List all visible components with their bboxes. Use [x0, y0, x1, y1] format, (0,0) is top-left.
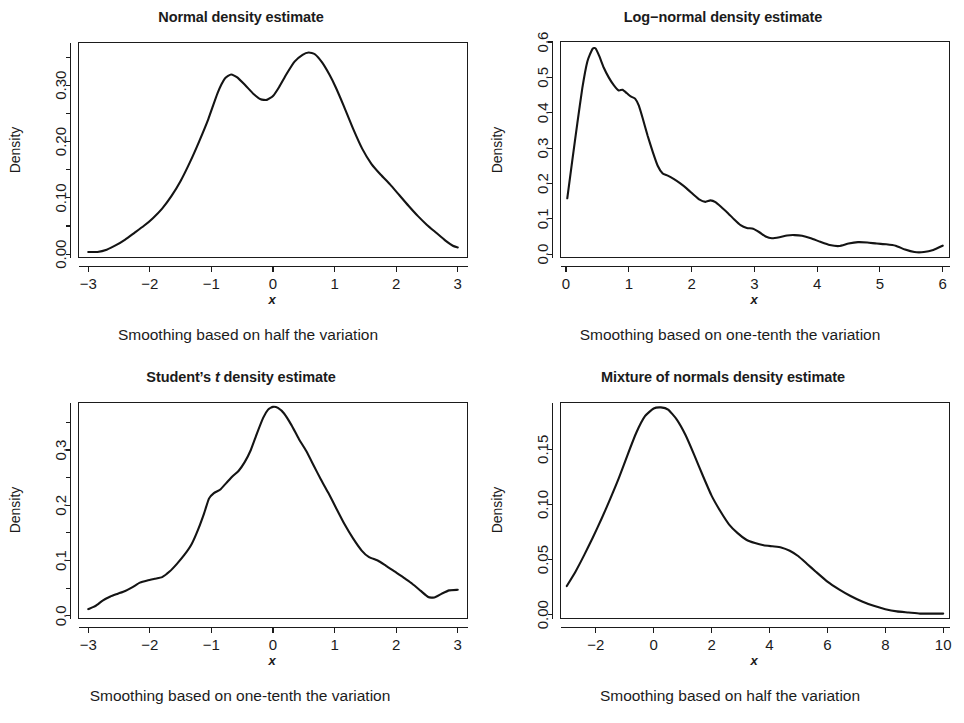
plot-title-post: density estimate: [220, 369, 336, 385]
y-tick-label: 0.2: [52, 495, 69, 516]
x-axis-label: x: [749, 653, 758, 668]
plot-title: Student’s t density estimate: [146, 369, 335, 385]
x-tick-label: 6: [939, 275, 947, 292]
x-tick-labels: −20246810: [587, 636, 951, 653]
plot-frame: [561, 403, 950, 619]
panel-caption: Smoothing based on half the variation: [600, 687, 860, 704]
x-tick-label: 4: [813, 275, 821, 292]
y-tick-label: 0.6: [534, 32, 551, 53]
y-axis-label: Density: [7, 127, 23, 174]
x-axis-label: x: [267, 653, 276, 668]
x-axis: [561, 267, 950, 272]
y-tick-label: 0.00: [534, 600, 551, 629]
figure-grid: Normal density estimate 0.000.100.200.30…: [0, 0, 964, 723]
plot-normal: Normal density estimate 0.000.100.200.30…: [0, 0, 482, 362]
y-tick-label: 0.0: [534, 244, 551, 265]
x-tick-label: 1: [330, 275, 338, 292]
panel-caption: Smoothing based on one-tenth the variati…: [580, 326, 881, 343]
panel-caption: Smoothing based on half the variation: [118, 326, 378, 343]
x-tick-label: 0: [562, 275, 570, 292]
density-curve: [567, 48, 942, 252]
x-tick-label: 0: [649, 636, 657, 653]
panel-caption: Smoothing based on one-tenth the variati…: [90, 687, 391, 704]
y-axis-label: Density: [7, 487, 23, 534]
y-tick-label: 0.05: [534, 545, 551, 574]
x-tick-label: 10: [935, 636, 952, 653]
y-tick-label: 0.3: [534, 138, 551, 159]
plot-frame: [79, 43, 468, 258]
x-tick-label: 4: [765, 636, 773, 653]
x-tick-label: 1: [330, 636, 338, 653]
x-tick-label: −3: [80, 275, 97, 292]
density-curve: [88, 407, 458, 609]
y-tick-label: 0.5: [534, 67, 551, 88]
panel-studentt: Student’s t density estimate 0.00.10.20.…: [0, 362, 482, 723]
y-tick-label: 0.0: [52, 605, 69, 626]
x-tick-label: 8: [881, 636, 889, 653]
y-tick-label: 0.10: [52, 183, 69, 212]
x-tick-label: 3: [454, 275, 462, 292]
x-tick-label: 0: [269, 275, 277, 292]
x-tick-label: 3: [750, 275, 758, 292]
y-tick-label: 0.20: [52, 127, 69, 156]
x-tick-label: 2: [707, 636, 715, 653]
plot-mixture: Mixture of normals density estimate 0.00…: [482, 362, 964, 723]
x-tick-label: 0: [269, 636, 277, 653]
density-curve: [567, 407, 943, 613]
panel-mixture: Mixture of normals density estimate 0.00…: [482, 362, 964, 723]
y-tick-label: 0.10: [534, 490, 551, 519]
y-tick-label: 0.30: [52, 71, 69, 100]
x-tick-label: −1: [203, 636, 220, 653]
x-axis: [79, 267, 468, 272]
plot-studentt: Student’s t density estimate 0.00.10.20.…: [0, 362, 482, 723]
y-tick-label: 0.2: [534, 173, 551, 194]
y-tick-label: 0.00: [52, 240, 69, 269]
plot-title: Log−normal density estimate: [624, 9, 822, 25]
x-tick-label: −1: [203, 275, 220, 292]
x-tick-label: −2: [587, 636, 604, 653]
y-axis-label: Density: [489, 487, 505, 534]
x-tick-labels: −3−2−10123: [80, 636, 462, 653]
plot-title-pre: Student’s: [146, 369, 215, 385]
plot-frame: [79, 403, 468, 619]
x-tick-label: 3: [454, 636, 462, 653]
x-tick-label: 2: [392, 636, 400, 653]
plot-title: Mixture of normals density estimate: [601, 369, 845, 385]
y-tick-labels: 0.00.10.20.30.40.50.6: [534, 32, 551, 265]
y-tick-label: 0.15: [534, 435, 551, 464]
x-tick-label: −2: [141, 275, 158, 292]
x-tick-label: −2: [141, 636, 158, 653]
y-tick-label: 0.3: [52, 440, 69, 461]
y-tick-label: 0.4: [534, 102, 551, 123]
x-axis: [79, 628, 468, 633]
x-tick-label: 2: [687, 275, 695, 292]
density-curve: [88, 53, 458, 252]
plot-title: Normal density estimate: [158, 9, 323, 25]
x-tick-label: −3: [80, 636, 97, 653]
x-axis-label: x: [267, 292, 276, 307]
x-axis-label: x: [749, 292, 758, 307]
y-tick-label: 0.1: [52, 550, 69, 571]
x-tick-labels: −3−2−10123: [80, 275, 462, 292]
y-tick-label: 0.1: [534, 208, 551, 229]
x-tick-label: 2: [392, 275, 400, 292]
y-axis-label: Density: [489, 127, 505, 174]
x-tick-label: 5: [876, 275, 884, 292]
x-tick-labels: 0123456: [562, 275, 947, 292]
y-tick-labels: 0.000.050.100.15: [534, 435, 551, 630]
plot-lognormal: Log−normal density estimate 0.00.10.20.3…: [482, 0, 964, 362]
x-tick-label: 1: [625, 275, 633, 292]
panel-normal: Normal density estimate 0.000.100.200.30…: [0, 0, 482, 362]
panel-lognormal: Log−normal density estimate 0.00.10.20.3…: [482, 0, 964, 362]
x-tick-label: 6: [823, 636, 831, 653]
plot-frame: [561, 42, 950, 258]
x-axis: [561, 628, 950, 633]
